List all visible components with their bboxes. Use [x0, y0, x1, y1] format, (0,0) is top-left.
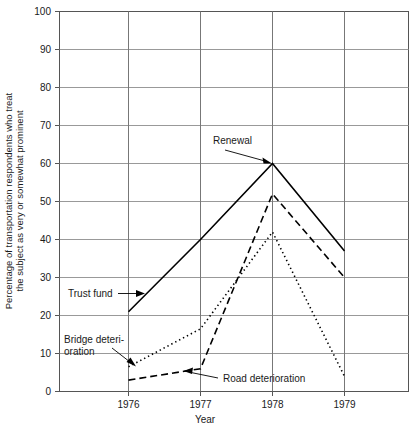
y-tick-label: 0: [45, 386, 51, 397]
annotation-trust-fund-label: Trust fund: [68, 288, 113, 299]
y-tick-label: 40: [40, 234, 52, 245]
line-chart: 100 90 80 70 60 50 40 30 20 10 0 1976 19…: [0, 0, 415, 427]
annotation-bridge-deterioration-label-line2: oration: [64, 346, 95, 357]
annotation-renewal-label: Renewal: [213, 135, 252, 146]
chart-canvas: 100 90 80 70 60 50 40 30 20 10 0 1976 19…: [0, 0, 415, 427]
x-tick-label: 1976: [117, 399, 140, 410]
x-axis-title: Year: [195, 414, 216, 425]
x-axis-ticks: [129, 392, 345, 397]
y-axis-title-line2: the subject as very or somewhat prominen…: [14, 110, 25, 291]
y-tick-label: 30: [40, 272, 52, 283]
y-axis-ticks: [55, 12, 60, 392]
y-tick-label: 80: [40, 82, 52, 93]
y-tick-label: 90: [40, 44, 52, 55]
x-tick-label: 1978: [261, 399, 284, 410]
y-tick-label: 50: [40, 196, 52, 207]
x-tick-label: 1979: [333, 399, 356, 410]
y-axis-title-line1: Percentage of transportation respondents…: [3, 92, 14, 309]
annotation-bridge-deterioration-label-line1: Bridge deteri-: [64, 334, 124, 345]
y-tick-label: 60: [40, 158, 52, 169]
y-tick-label: 100: [34, 6, 51, 17]
y-tick-labels: 100 90 80 70 60 50 40 30 20 10 0: [34, 6, 51, 397]
y-tick-label: 10: [40, 348, 52, 359]
y-tick-label: 70: [40, 120, 52, 131]
annotation-road-deterioration-label: Road deterioration: [223, 373, 305, 384]
x-tick-label: 1977: [189, 399, 212, 410]
y-tick-label: 20: [40, 310, 52, 321]
x-tick-labels: 1976 1977 1978 1979: [117, 399, 356, 410]
y-axis-title: Percentage of transportation respondents…: [3, 92, 25, 309]
